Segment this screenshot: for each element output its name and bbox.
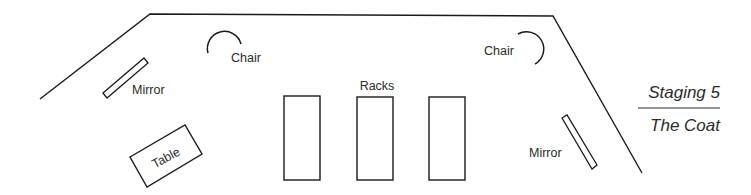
racks: Racks <box>284 79 465 180</box>
mirror-right: Mirror <box>529 115 597 169</box>
racks-label: Racks <box>360 79 395 93</box>
chair-right-arc-icon <box>518 32 544 64</box>
table: Table <box>130 125 202 187</box>
rack-3 <box>429 97 465 180</box>
mirror-left-label: Mirror <box>132 83 165 97</box>
chair-left: Chair <box>207 31 260 65</box>
rack-2 <box>357 97 393 180</box>
diagram-subtitle: The Coat <box>650 116 721 135</box>
chair-left-arc-icon <box>207 31 241 53</box>
mirror-right-shape <box>562 115 597 169</box>
chair-right-label: Chair <box>484 44 514 58</box>
rack-1 <box>284 96 320 180</box>
chair-right: Chair <box>484 32 544 64</box>
mirror-right-label: Mirror <box>529 146 562 160</box>
diagram-title: Staging 5 <box>648 83 720 102</box>
chair-left-label: Chair <box>231 51 261 65</box>
mirror-left: Mirror <box>103 58 165 98</box>
staging-diagram: Mirror Chair Table Racks Chair Mirror St… <box>0 0 751 195</box>
title-block: Staging 5 The Coat <box>638 83 721 135</box>
table-label: Table <box>150 145 183 171</box>
